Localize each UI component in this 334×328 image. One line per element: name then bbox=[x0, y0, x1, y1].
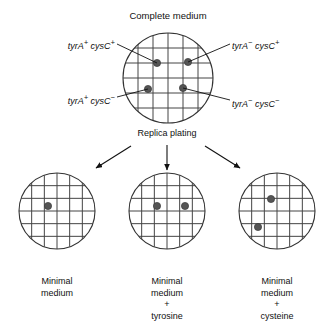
colony-dot bbox=[267, 195, 274, 202]
colony-dot bbox=[181, 202, 188, 209]
caption-line: Minimal bbox=[41, 276, 73, 288]
complete-medium-plate bbox=[121, 31, 215, 125]
allele-sign-2: − bbox=[111, 93, 115, 102]
replica-plating-diagram: Complete medium tyrA+ cysC+tyrA− cysC+ty… bbox=[0, 0, 334, 328]
gene-name-2: cysC bbox=[91, 96, 111, 106]
allele-sign-2: + bbox=[111, 38, 115, 47]
arrow-left bbox=[96, 146, 131, 168]
colony-dot bbox=[44, 202, 51, 209]
caption-line: medium bbox=[260, 288, 293, 300]
minimal-medium-plate-caption: Minimalmedium bbox=[41, 276, 73, 299]
gene-name-2: cysC bbox=[255, 99, 275, 109]
label-tyrA-minus-cysC-minus: tyrA− cysC− bbox=[232, 99, 279, 110]
minimal-medium-plate bbox=[17, 171, 97, 251]
gene-name-1: tyrA bbox=[68, 96, 84, 106]
caption-line: medium bbox=[151, 288, 183, 300]
label-tyrA-plus-cysC-minus: tyrA+ cysC− bbox=[68, 96, 115, 107]
allele-sign-2: − bbox=[275, 96, 279, 105]
caption-line: medium bbox=[41, 288, 73, 300]
leader-line-label-tyrA-plus-cysC-plus bbox=[117, 44, 157, 63]
minimal-medium-tyrosine-plate bbox=[127, 171, 207, 251]
colony-dot bbox=[254, 223, 261, 230]
arrow-right bbox=[205, 146, 240, 168]
page-title: Complete medium bbox=[129, 10, 206, 21]
label-tyrA-minus-cysC-plus: tyrA− cysC+ bbox=[232, 41, 279, 52]
complete-medium-plate-grid bbox=[121, 31, 215, 125]
minimal-medium-tyrosine-plate-caption: Minimalmedium+tyrosine bbox=[151, 276, 183, 322]
caption-line: Minimal bbox=[151, 276, 183, 288]
replica-plate-group bbox=[17, 171, 317, 251]
colony-dot bbox=[153, 202, 160, 209]
minimal-medium-plate-grid bbox=[17, 171, 97, 251]
replica-plating-arrows bbox=[96, 145, 240, 170]
caption-line: tyrosine bbox=[151, 311, 183, 323]
gene-name-1: tyrA bbox=[232, 99, 248, 109]
gene-name-2: cysC bbox=[91, 41, 111, 51]
caption-line: cysteine bbox=[260, 311, 293, 323]
minimal-medium-tyrosine-plate-grid bbox=[127, 171, 207, 251]
caption-line: + bbox=[151, 299, 183, 311]
gene-name-2: cysC bbox=[255, 41, 275, 51]
caption-line: Minimal bbox=[260, 276, 293, 288]
gene-name-1: tyrA bbox=[68, 41, 84, 51]
minimal-medium-cysteine-plate bbox=[237, 171, 317, 251]
caption-line: + bbox=[260, 299, 293, 311]
gene-name-1: tyrA bbox=[232, 41, 248, 51]
minimal-medium-cysteine-plate-caption: Minimalmedium+cysteine bbox=[260, 276, 293, 322]
minimal-medium-cysteine-plate-grid bbox=[237, 171, 317, 251]
leader-line-label-tyrA-minus-cysC-minus bbox=[183, 88, 230, 100]
label-tyrA-plus-cysC-plus: tyrA+ cysC+ bbox=[68, 41, 115, 52]
allele-sign-2: + bbox=[275, 38, 279, 47]
replica-plating-label: Replica plating bbox=[137, 128, 196, 139]
